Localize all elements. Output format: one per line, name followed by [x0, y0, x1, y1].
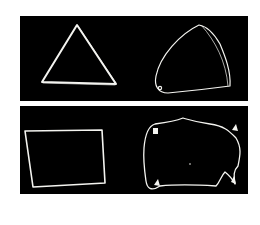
triangle-drawing [42, 25, 116, 85]
square-drawing [25, 130, 105, 187]
curved-triangle-drawing [156, 25, 231, 93]
marker-icon [153, 128, 158, 134]
top-panel [20, 16, 248, 101]
marker-icon [232, 124, 238, 131]
marker-icon [231, 176, 236, 184]
bottom-panel-drawings [20, 106, 248, 194]
irregular-blob-drawing [144, 118, 240, 189]
top-panel-drawings [20, 16, 248, 101]
marker-icon [154, 179, 160, 186]
bottom-panel [20, 106, 248, 194]
